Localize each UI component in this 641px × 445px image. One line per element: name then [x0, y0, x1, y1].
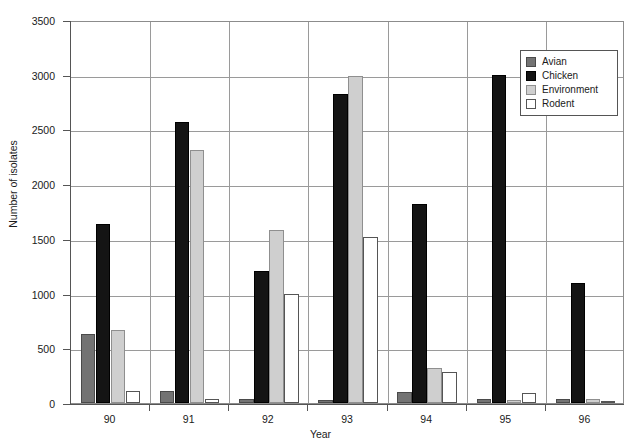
y-axis-tick-label: 3500 — [8, 16, 55, 26]
x-axis-tick — [307, 404, 308, 411]
x-axis-tick-label: 91 — [159, 413, 219, 425]
bar-environment-92 — [269, 230, 284, 403]
bar-avian-91 — [160, 391, 175, 403]
legend-label: Avian — [542, 56, 567, 67]
y-axis-tick — [63, 404, 71, 405]
x-axis-tick — [466, 404, 467, 411]
bar-chicken-93 — [333, 94, 348, 403]
y-axis-tick-label: 1500 — [8, 235, 55, 245]
x-axis-tick — [149, 404, 150, 411]
y-axis-tick — [63, 21, 71, 22]
y-axis-tick-label: 2000 — [8, 180, 55, 190]
y-axis-tick — [63, 240, 71, 241]
y-axis-tick-label: 1000 — [8, 290, 55, 300]
group-separator — [467, 22, 468, 403]
y-axis-tick — [63, 349, 71, 350]
legend-label: Environment — [542, 84, 598, 95]
bar-environment-90 — [111, 330, 126, 403]
bar-chart-figure: Number of isolates Year AvianChickenEnvi… — [0, 0, 641, 445]
bar-chicken-95 — [492, 75, 507, 403]
x-axis-tick-label: 94 — [396, 413, 456, 425]
bar-rodent-91 — [205, 399, 220, 403]
legend-swatch-avian-icon — [526, 57, 536, 67]
bar-rodent-90 — [126, 391, 141, 403]
x-axis-tick-label: 95 — [475, 413, 535, 425]
group-separator — [229, 22, 230, 403]
bar-environment-96 — [586, 399, 601, 403]
bar-rodent-95 — [522, 393, 537, 403]
chart-legend: AvianChickenEnvironmentRodent — [520, 50, 618, 116]
bar-avian-93 — [318, 400, 333, 403]
bar-rodent-94 — [442, 372, 457, 403]
bar-rodent-93 — [363, 237, 378, 403]
legend-item-rodent: Rodent — [526, 97, 612, 110]
y-axis-tick — [63, 185, 71, 186]
legend-item-chicken: Chicken — [526, 69, 612, 82]
y-axis-line — [70, 21, 71, 404]
bar-rodent-96 — [601, 401, 616, 403]
x-axis-tick — [228, 404, 229, 411]
y-axis-tick-label: 2500 — [8, 125, 55, 135]
group-separator — [388, 22, 389, 403]
bar-avian-96 — [556, 399, 571, 403]
legend-swatch-rodent-icon — [526, 99, 536, 109]
x-axis-tick-label: 92 — [238, 413, 298, 425]
x-axis-tick-label: 93 — [317, 413, 377, 425]
legend-item-avian: Avian — [526, 55, 612, 68]
legend-label: Rodent — [542, 98, 574, 109]
bar-environment-93 — [348, 76, 363, 403]
bar-environment-91 — [190, 150, 205, 403]
legend-item-environment: Environment — [526, 83, 612, 96]
bar-avian-94 — [397, 392, 412, 403]
x-axis-title: Year — [0, 428, 641, 440]
x-axis-tick-label: 96 — [554, 413, 614, 425]
bar-avian-95 — [477, 399, 492, 403]
bar-environment-95 — [507, 400, 522, 403]
group-separator — [150, 22, 151, 403]
x-axis-tick — [387, 404, 388, 411]
bar-environment-94 — [427, 368, 442, 403]
x-axis-line — [70, 404, 624, 405]
y-axis-tick-label: 3000 — [8, 71, 55, 81]
legend-swatch-environment-icon — [526, 85, 536, 95]
bar-chicken-96 — [571, 283, 586, 403]
y-axis-tick-label: 500 — [8, 344, 55, 354]
bar-avian-92 — [239, 399, 254, 403]
bar-chicken-91 — [175, 122, 190, 403]
x-axis-tick — [545, 404, 546, 411]
x-axis-tick-label: 90 — [80, 413, 140, 425]
y-axis-tick — [63, 130, 71, 131]
bar-rodent-92 — [284, 294, 299, 403]
bar-chicken-90 — [96, 224, 111, 403]
y-axis-tick — [63, 76, 71, 77]
y-axis-tick-label: 0 — [8, 399, 55, 409]
bar-chicken-92 — [254, 271, 269, 403]
legend-label: Chicken — [542, 70, 578, 81]
y-axis-tick — [63, 295, 71, 296]
group-separator — [308, 22, 309, 403]
bar-avian-90 — [81, 334, 96, 403]
legend-swatch-chicken-icon — [526, 71, 536, 81]
bar-chicken-94 — [412, 204, 427, 403]
